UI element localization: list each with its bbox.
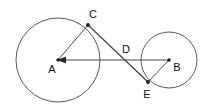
point-label-c: C: [89, 8, 97, 20]
point-e-dot: [146, 80, 150, 84]
segment-be-radius-line: [148, 60, 169, 82]
point-label-d: D: [122, 43, 130, 55]
segment-ac-radius-line: [58, 25, 88, 60]
point-label-e: E: [143, 88, 150, 100]
geometry-figure: A B C D E: [0, 0, 210, 110]
segment-ce-chord-line: [88, 25, 148, 82]
geometry-canvas: A B C D E: [0, 0, 210, 110]
point-label-a: A: [48, 63, 56, 75]
point-b-dot: [167, 58, 170, 61]
point-c-dot: [86, 23, 90, 27]
point-label-b: B: [173, 61, 180, 73]
point-a-dot: [56, 58, 59, 61]
